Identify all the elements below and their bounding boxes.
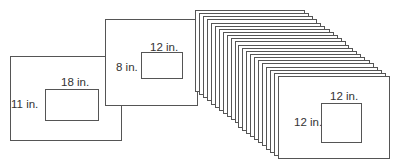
frame-12x12-height-label: 12 in.: [294, 116, 322, 128]
frame-12x8-width-label: 12 in.: [150, 41, 178, 53]
frame-12x12-opening: [321, 103, 362, 143]
frame-12x12-width-label: 12 in.: [330, 90, 358, 102]
frame-18x11-opening: [45, 89, 99, 121]
frame-12x8-opening: [141, 52, 183, 79]
frame-12x8-height-label: 8 in.: [116, 61, 138, 73]
frame-18x11-height-label: 11 in.: [11, 98, 38, 110]
frame-18x11-width-label: 18 in.: [61, 76, 89, 88]
